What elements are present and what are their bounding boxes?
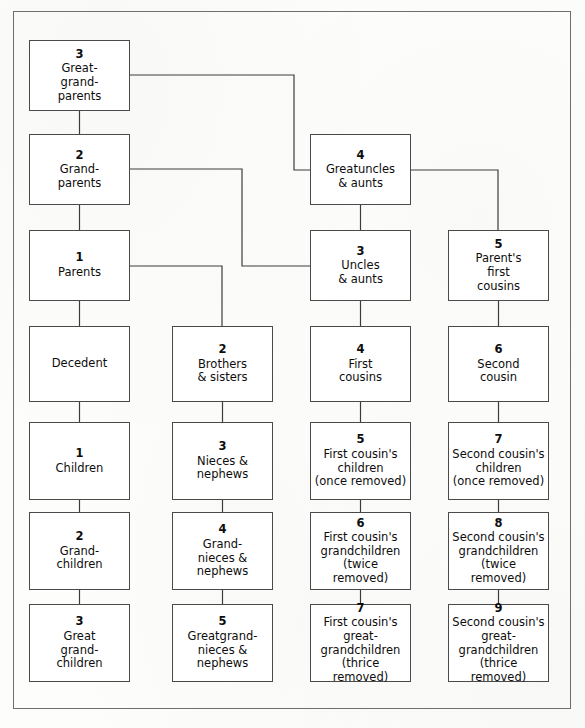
- node-label: Decedent: [49, 357, 111, 371]
- node-greatuncles-aunts[interactable]: 4Greatuncles & aunts: [310, 134, 411, 205]
- node-label: Grand- nieces & nephews: [194, 538, 251, 579]
- node-degree-number: 4: [356, 149, 364, 163]
- node-label: Second cousin's great- grandchildren (th…: [449, 616, 548, 684]
- node-second-cousins-children[interactable]: 7Second cousin's children (once removed): [448, 422, 549, 500]
- node-label: First cousin's grandchildren (twice remo…: [311, 531, 410, 585]
- node-parents-first-cousins[interactable]: 5Parent's first cousins: [448, 230, 549, 301]
- node-degree-number: 2: [75, 149, 83, 163]
- node-first-cousins-children[interactable]: 5First cousin's children (once removed): [310, 422, 411, 500]
- node-label: Great- grand- parents: [55, 62, 105, 103]
- node-label: Second cousin's grandchildren (twice rem…: [449, 531, 548, 585]
- node-degree-number: 6: [494, 343, 502, 357]
- node-label: Second cousin: [474, 358, 522, 385]
- node-label: Parents: [55, 266, 104, 280]
- node-degree-number: 2: [218, 343, 226, 357]
- node-degree-number: 5: [218, 615, 226, 629]
- node-degree-number: 6: [356, 517, 364, 531]
- node-label: Great grand- children: [53, 630, 105, 671]
- node-label: Greatuncles & aunts: [323, 163, 398, 190]
- node-degree-number: 4: [218, 523, 226, 537]
- node-great-grandparents[interactable]: 3Great- grand- parents: [29, 40, 130, 111]
- node-grandparents[interactable]: 2Grand- parents: [29, 134, 130, 205]
- node-parents[interactable]: 1Parents: [29, 230, 130, 301]
- node-second-cousins-grandchildren[interactable]: 8Second cousin's grandchildren (twice re…: [448, 512, 549, 590]
- node-grandchildren[interactable]: 2Grand- children: [29, 512, 130, 590]
- node-children[interactable]: 1Children: [29, 422, 130, 500]
- node-degree-number: 3: [356, 245, 364, 259]
- node-degree-number: 7: [494, 433, 502, 447]
- node-degree-number: 1: [75, 447, 83, 461]
- node-degree-number: 2: [75, 530, 83, 544]
- node-degree-number: 1: [75, 251, 83, 265]
- node-label: Grand- parents: [55, 163, 105, 190]
- node-degree-number: 7: [356, 602, 364, 616]
- node-label: First cousin's children (once removed): [312, 448, 409, 489]
- node-label: Children: [53, 462, 107, 476]
- node-label: First cousin's great- grandchildren (thr…: [311, 616, 410, 684]
- kinship-chart: 3Great- grand- parents2Grand- parents1Pa…: [0, 0, 585, 728]
- node-first-cousins[interactable]: 4First cousins: [310, 326, 411, 402]
- node-degree-number: 5: [356, 433, 364, 447]
- node-great-grandchildren[interactable]: 3Great grand- children: [29, 604, 130, 682]
- node-grandnieces-nephews[interactable]: 4Grand- nieces & nephews: [172, 512, 273, 590]
- node-degree-number: 9: [494, 602, 502, 616]
- node-label: Grand- children: [53, 545, 105, 572]
- node-label: Brothers & sisters: [194, 358, 250, 385]
- node-nieces-nephews[interactable]: 3Nieces & nephews: [172, 422, 273, 500]
- node-decedent[interactable]: Decedent: [29, 326, 130, 402]
- node-label: Greatgrand- nieces & nephews: [185, 630, 261, 671]
- node-label: Second cousin's children (once removed): [449, 448, 547, 489]
- node-label: First cousins: [336, 358, 385, 385]
- node-greatgrandnieces-nephews[interactable]: 5Greatgrand- nieces & nephews: [172, 604, 273, 682]
- node-degree-number: 3: [218, 440, 226, 454]
- node-degree-number: 3: [75, 615, 83, 629]
- node-degree-number: 8: [494, 517, 502, 531]
- node-second-cousin[interactable]: 6Second cousin: [448, 326, 549, 402]
- node-brothers-sisters[interactable]: 2Brothers & sisters: [172, 326, 273, 402]
- node-first-cousins-grandchildren[interactable]: 6First cousin's grandchildren (twice rem…: [310, 512, 411, 590]
- node-label: Parent's first cousins: [473, 252, 525, 293]
- node-first-cousins-great-grandchildren[interactable]: 7First cousin's great- grandchildren (th…: [310, 604, 411, 682]
- node-label: Nieces & nephews: [194, 455, 251, 482]
- node-degree-number: 3: [75, 48, 83, 62]
- node-second-cousins-great-grandchildren[interactable]: 9Second cousin's great- grandchildren (t…: [448, 604, 549, 682]
- node-degree-number: 5: [494, 238, 502, 252]
- node-label: Uncles & aunts: [335, 259, 386, 286]
- node-uncles-aunts[interactable]: 3Uncles & aunts: [310, 230, 411, 301]
- node-degree-number: 4: [356, 343, 364, 357]
